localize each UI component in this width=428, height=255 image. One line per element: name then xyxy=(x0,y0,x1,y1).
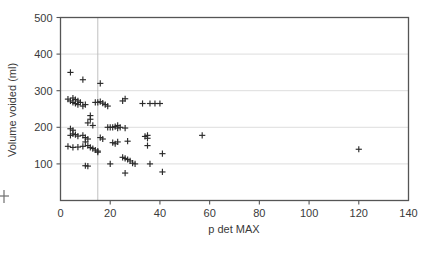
data-point xyxy=(159,151,165,157)
data-point xyxy=(122,125,128,131)
y-tick-label-400: 400 xyxy=(34,48,52,60)
data-point xyxy=(107,161,113,167)
data-point xyxy=(157,100,163,106)
data-point xyxy=(125,138,131,144)
data-point xyxy=(159,169,165,175)
data-point xyxy=(80,77,86,83)
y-tick-label-300: 300 xyxy=(34,85,52,97)
x-axis-title: p det MAX xyxy=(208,223,260,235)
scatter-plot-figure: 020406080100120140 100200300400500 p det… xyxy=(0,0,428,255)
gridlines xyxy=(61,54,409,164)
x-tick-label-20: 20 xyxy=(104,207,116,219)
x-tick-label-60: 60 xyxy=(204,207,216,219)
data-point xyxy=(75,144,81,150)
data-point xyxy=(122,170,128,176)
data-point xyxy=(147,161,153,167)
y-tick-label-500: 500 xyxy=(34,12,52,24)
x-tick-label-80: 80 xyxy=(253,207,265,219)
plot-frame xyxy=(61,18,409,201)
data-point xyxy=(144,143,150,149)
left-margin-mark xyxy=(0,190,9,203)
data-points xyxy=(65,69,362,176)
data-point xyxy=(67,69,73,75)
x-tick-label-40: 40 xyxy=(154,207,166,219)
data-point xyxy=(139,100,145,106)
x-tick-label-100: 100 xyxy=(300,207,318,219)
x-tick-label-120: 120 xyxy=(350,207,368,219)
y-axis-ticks: 100200300400500 xyxy=(34,12,60,170)
data-point xyxy=(356,146,362,152)
x-axis-ticks: 020406080100120140 xyxy=(57,201,417,219)
data-point xyxy=(65,143,71,149)
y-tick-label-200: 200 xyxy=(34,121,52,133)
plot-canvas: 020406080100120140 100200300400500 p det… xyxy=(0,0,428,255)
x-tick-label-140: 140 xyxy=(399,207,417,219)
data-point xyxy=(199,132,205,138)
y-axis-title: Volume voided (ml) xyxy=(6,63,18,157)
x-tick-label-0: 0 xyxy=(57,207,63,219)
y-tick-label-100: 100 xyxy=(34,158,52,170)
